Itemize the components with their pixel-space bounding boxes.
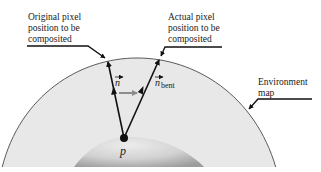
normal-vector-symbol: n [115,77,120,88]
normal-vector-label: n [115,77,120,88]
original-pixel-label-line2: position to be [28,23,81,34]
actual-pixel-label: Actual pixel position to be composited [168,12,220,45]
actual-pixel-label-line1: Actual pixel [168,12,220,23]
point-p-label: p [120,144,126,159]
original-pixel-label-line1: Original pixel [28,12,81,23]
actual-pixel-leader [161,47,222,56]
environment-map-label: Environment map [258,77,308,99]
environment-map-leader [249,99,312,109]
actual-pixel-label-line2: position to be [168,23,220,34]
bent-normal-vector-symbol: n [155,77,160,88]
actual-pixel-label-line3: composited [168,34,220,45]
environment-map-label-line2: map [258,88,308,99]
bent-subscript: bent [161,81,175,90]
environment-map-label-line1: Environment [258,77,308,88]
original-pixel-label-line3: composited [28,34,81,45]
original-pixel-leader [27,46,105,58]
original-pixel-label: Original pixel position to be composited [28,12,81,45]
bent-normal-vector-label: nbent [155,77,175,90]
point-p-symbol: p [120,144,126,158]
